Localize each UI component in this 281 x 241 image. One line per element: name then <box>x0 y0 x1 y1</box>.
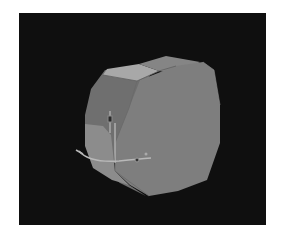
gizmo-z-handle[interactable] <box>145 153 148 156</box>
octagonal-prism[interactable] <box>85 56 220 196</box>
gizmo-y-handle[interactable] <box>108 116 112 122</box>
gizmo-x-handle[interactable] <box>135 158 139 162</box>
3d-viewport[interactable] <box>19 13 266 225</box>
scene <box>19 13 266 225</box>
